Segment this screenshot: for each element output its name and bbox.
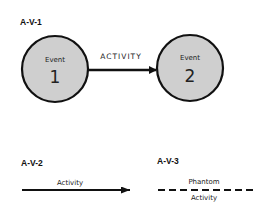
section-label-a-v-3: A-V-3 [157,156,179,166]
section-a-v-1: A-V-1 Event 1 ACTIVITY Event 2 [20,17,223,102]
event-node-2: Event 2 [157,35,223,101]
activity-arrow-label: Activity [57,179,83,187]
event-node-1: Event 1 [22,36,88,102]
event-title-1: Event [45,56,65,64]
section-a-v-3: A-V-3 Phantom Activity [157,156,257,202]
activity-on-arrow-diagram: A-V-1 Event 1 ACTIVITY Event 2 A-V-2 Act… [0,0,257,210]
section-a-v-2: A-V-2 Activity [21,158,130,190]
section-label-a-v-1: A-V-1 [20,17,42,27]
section-label-a-v-2: A-V-2 [21,158,43,168]
phantom-activity-label: Activity [191,194,217,202]
event-number-1: 1 [50,67,61,87]
event-title-2: Event [180,54,200,62]
activity-label: ACTIVITY [100,52,142,61]
event-number-2: 2 [185,66,196,86]
phantom-label: Phantom [188,178,219,186]
